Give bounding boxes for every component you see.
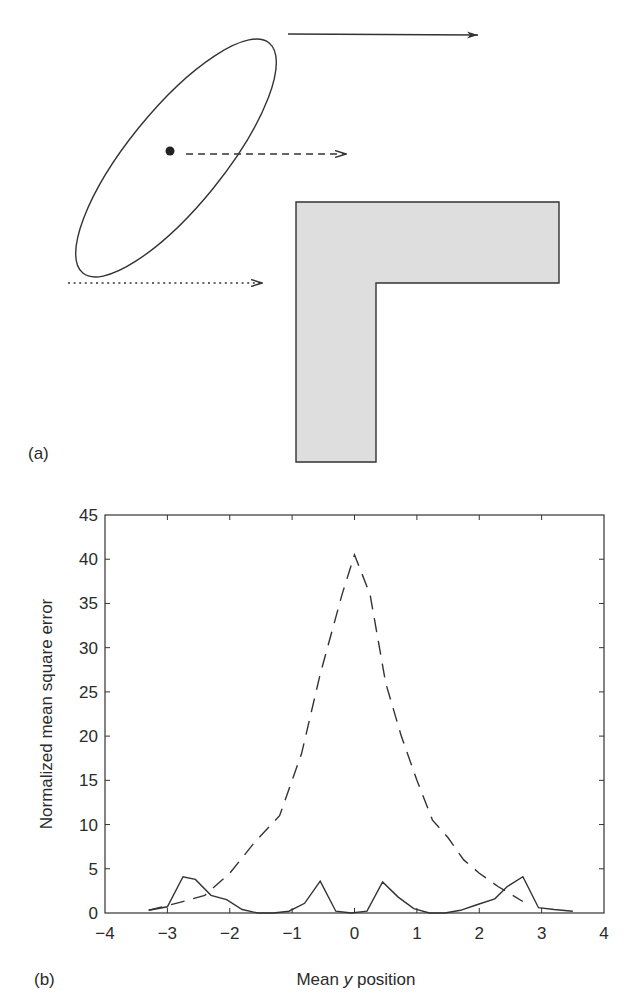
y-tick-label: 5 <box>89 860 98 879</box>
y-tick-label: 30 <box>79 639 98 658</box>
x-tick-label: 2 <box>475 924 484 943</box>
plot-frame <box>105 515 604 913</box>
x-tick-label: −1 <box>282 924 301 943</box>
panel-a-label: (a) <box>28 444 49 463</box>
y-axis-ticks: 051015202530354045 <box>79 506 604 923</box>
centroid-dot <box>166 147 175 156</box>
x-tick-label: −2 <box>220 924 239 943</box>
panel-b-label: (b) <box>34 970 55 989</box>
y-tick-label: 10 <box>79 816 98 835</box>
y-tick-label: 45 <box>79 506 98 525</box>
x-tick-label: 0 <box>350 924 359 943</box>
y-axis-label: Normalized mean square error <box>37 598 56 829</box>
x-axis-ticks: −4−3−2−101234 <box>95 515 608 943</box>
series-layer <box>149 555 573 913</box>
y-tick-label: 25 <box>79 683 98 702</box>
l-shape-object <box>296 202 559 462</box>
figure-canvas: (a) −4−3−2−101234 051015202530354045 Nor… <box>0 0 643 1006</box>
x-tick-label: 4 <box>599 924 608 943</box>
solid-arrow <box>288 34 478 35</box>
dashed-series-line <box>149 555 523 911</box>
x-tick-label: −4 <box>95 924 114 943</box>
y-tick-label: 20 <box>79 727 98 746</box>
solid-series-line <box>149 877 573 913</box>
x-tick-label: 3 <box>537 924 546 943</box>
panel-b-chart: −4−3−2−101234 051015202530354045 Normali… <box>34 506 609 989</box>
x-tick-label: 1 <box>412 924 421 943</box>
y-tick-label: 35 <box>79 594 98 613</box>
x-axis-label: Mean y position <box>296 970 415 989</box>
x-tick-label: −3 <box>158 924 177 943</box>
y-tick-label: 15 <box>79 771 98 790</box>
y-tick-label: 40 <box>79 550 98 569</box>
y-tick-label: 0 <box>89 904 98 923</box>
ellipse-shape <box>46 13 307 303</box>
panel-a: (a) <box>28 13 559 463</box>
